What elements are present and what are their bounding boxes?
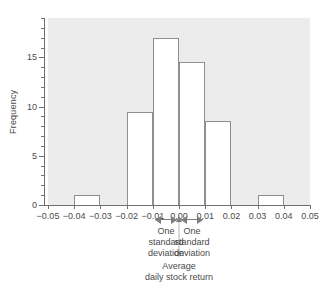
y-tick	[41, 18, 44, 19]
y-axis-line	[44, 18, 45, 205]
y-tick	[41, 67, 44, 68]
y-tick-label: 5	[32, 151, 37, 160]
y-tick	[41, 136, 44, 137]
arrowhead-left-icon	[155, 216, 161, 224]
y-tick	[41, 175, 44, 176]
x-axis-title: Average daily stock return	[48, 261, 310, 283]
y-tick	[39, 57, 44, 58]
histogram-bar	[258, 195, 284, 205]
y-tick	[41, 195, 44, 196]
y-tick	[41, 116, 44, 117]
sd-label-right: Onestandarddeviation	[174, 226, 210, 259]
y-tick	[41, 87, 44, 88]
histogram-bar	[74, 195, 100, 205]
sd-label-right-line2: standard	[174, 237, 210, 248]
histogram-bar	[127, 112, 153, 206]
sd-arrow-right	[181, 215, 203, 224]
y-tick-label: 10	[27, 102, 37, 111]
y-tick	[41, 77, 44, 78]
y-tick	[41, 166, 44, 167]
sd-arrow-left	[155, 215, 177, 224]
y-tick	[41, 97, 44, 98]
y-tick	[41, 185, 44, 186]
y-tick	[41, 38, 44, 39]
y-tick-label: 15	[27, 53, 37, 62]
y-tick-label: 0	[32, 201, 37, 210]
x-axis-title-line2: daily stock return	[48, 272, 310, 283]
y-tick	[41, 126, 44, 127]
y-tick	[39, 107, 44, 108]
histogram-bar	[179, 62, 205, 205]
x-tick	[310, 205, 311, 209]
sd-label-right-line1: One	[174, 226, 210, 237]
sd-label-right-line3: deviation	[174, 248, 210, 259]
histogram-figure: Frequency 051015 −0.05−0.04−0.03−0.02−0.…	[0, 0, 326, 293]
y-axis-title: Frequency	[8, 62, 22, 162]
plot-area: 051015 −0.05−0.04−0.03−0.02−0.010.000.01…	[48, 18, 310, 205]
histogram-bar	[205, 121, 231, 205]
y-tick	[39, 205, 44, 206]
annotation-band: OnestandarddeviationOnestandarddeviation…	[48, 205, 310, 293]
y-tick	[39, 156, 44, 157]
y-tick	[41, 28, 44, 29]
y-tick	[41, 48, 44, 49]
x-axis-title-line1: Average	[48, 261, 310, 272]
arrowhead-right-icon	[197, 216, 203, 224]
y-tick	[41, 146, 44, 147]
histogram-bar	[153, 38, 179, 205]
